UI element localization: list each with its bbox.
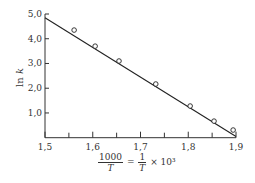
x-axis-label: 1000 T = 1 T × 10³ [98,149,176,175]
y-tick-label: 3,0 [28,58,43,68]
x-label-denominator-2: T [139,163,145,173]
data-point [93,44,98,49]
y-axis-label-var: k [14,68,25,74]
y-tick-label: 4,0 [28,34,43,44]
fit-line [45,18,236,137]
x-label-multiplier: × 10³ [150,157,175,167]
x-label-numerator: 1000 [98,152,123,163]
x-label-equals: = [127,157,135,167]
x-label-fraction-2: 1 T [138,152,146,173]
arrhenius-plot: 1,02,03,04,05,01,51,61,71,81,9 ln k 1000… [0,0,255,183]
x-tick-label: 1,8 [181,142,196,152]
x-label-denominator: T [107,163,113,173]
x-tick-label: 1,5 [38,142,53,152]
y-axis-label-text: ln [14,74,25,87]
data-point [153,82,158,87]
data-point [188,104,193,109]
x-label-numerator-2: 1 [138,152,146,163]
data-point [231,128,236,133]
y-axis-label: ln k [14,68,25,87]
x-tick-label: 1,9 [229,142,244,152]
data-point [72,28,77,33]
x-label-fraction-1: 1000 T [98,152,123,173]
data-point [212,119,217,124]
y-tick-label: 1,0 [28,108,43,118]
data-point [117,59,122,64]
y-tick-label: 5,0 [28,9,43,19]
y-tick-label: 2,0 [28,83,43,93]
